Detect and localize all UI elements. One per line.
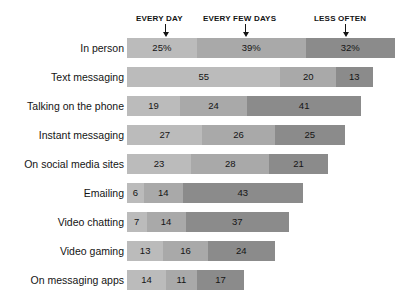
bar-value-label: 14 [158, 188, 169, 198]
bar-value-label: 11 [176, 275, 186, 285]
pointer-arrow-every-few-days [242, 24, 249, 38]
bar-segment-every-day: 23 [127, 154, 191, 174]
bar-value-label: 17 [215, 275, 226, 285]
legend-label-less-often: LESS OFTEN [314, 14, 366, 23]
bar-segment-every-few-days: 11 [166, 270, 197, 290]
bar-value-label: 14 [161, 217, 172, 227]
table-row: On social media sites232821 [0, 154, 410, 174]
bar-segment-less-often: 25 [275, 125, 345, 145]
table-row: Video chatting71437 [0, 212, 410, 232]
stacked-bar: 552013 [127, 67, 373, 87]
bar-segment-every-few-days: 16 [163, 241, 208, 261]
bar-value-label: 39% [242, 43, 261, 53]
stacked-bar: 71437 [127, 212, 289, 232]
table-row: Text messaging552013 [0, 67, 410, 87]
bar-segment-every-day: 55 [127, 67, 280, 87]
category-label-on-social-media-sites: On social media sites [24, 158, 124, 170]
bar-value-label: 24 [236, 246, 247, 256]
bar-segment-every-day: 27 [127, 125, 202, 145]
category-label-emailing: Emailing [84, 187, 124, 199]
bar-segment-every-day: 19 [127, 96, 180, 116]
bar-value-label: 26 [233, 130, 244, 140]
bar-segment-every-few-days: 14 [144, 183, 183, 203]
legend-label-every-few-days: EVERY FEW DAYS [203, 14, 276, 23]
table-row: On messaging apps141117 [0, 270, 410, 290]
stacked-bar: 141117 [127, 270, 244, 290]
legend-label-every-day: EVERY DAY [136, 14, 183, 23]
stacked-bar: 25%39%32% [127, 38, 395, 58]
bar-segment-less-often: 41 [247, 96, 361, 116]
bar-segment-less-often: 13 [336, 67, 372, 87]
bar-segment-less-often: 17 [197, 270, 244, 290]
bar-value-label: 7 [134, 217, 139, 227]
bar-value-label: 23 [154, 159, 165, 169]
bar-value-label: 6 [133, 188, 138, 198]
bar-value-label: 13 [349, 72, 360, 82]
bar-value-label: 20 [303, 72, 314, 82]
category-label-talking-on-the-phone: Talking on the phone [27, 100, 124, 112]
stacked-bar: 232821 [127, 154, 328, 174]
bar-segment-every-few-days: 20 [280, 67, 336, 87]
table-row: Talking on the phone192441 [0, 96, 410, 116]
pointer-arrow-less-often [342, 24, 349, 38]
bar-segment-every-few-days: 26 [202, 125, 275, 145]
bar-value-label: 13 [140, 246, 151, 256]
stacked-bar-chart: EVERY DAY EVERY FEW DAYS LESS OFTEN In p… [0, 0, 410, 299]
bar-value-label: 55 [198, 72, 209, 82]
bar-segment-every-day: 6 [127, 183, 144, 203]
bar-segment-every-day: 25% [127, 38, 197, 58]
bar-value-label: 41 [299, 101, 310, 111]
bar-segment-less-often: 37 [186, 212, 289, 232]
stacked-bar: 192441 [127, 96, 361, 116]
bar-segment-every-few-days: 39% [197, 38, 306, 58]
bar-segment-every-few-days: 28 [191, 154, 269, 174]
bar-value-label: 32% [341, 43, 360, 53]
bar-value-label: 25 [304, 130, 315, 140]
category-label-in-person: In person [80, 42, 124, 54]
stacked-bar: 131624 [127, 241, 275, 261]
bar-value-label: 16 [180, 246, 191, 256]
bar-value-label: 25% [152, 43, 171, 53]
category-label-instant-messaging: Instant messaging [39, 129, 124, 141]
category-label-on-messaging-apps: On messaging apps [31, 274, 124, 286]
table-row: Emailing61443 [0, 183, 410, 203]
category-label-video-gaming: Video gaming [60, 245, 124, 257]
bar-segment-less-often: 43 [183, 183, 303, 203]
pointer-arrow-every-day [162, 24, 169, 38]
bar-segment-every-day: 14 [127, 270, 166, 290]
bar-segment-less-often: 32% [306, 38, 395, 58]
table-row: Video gaming131624 [0, 241, 410, 261]
bar-segment-every-few-days: 14 [147, 212, 186, 232]
bar-value-label: 14 [141, 275, 152, 285]
stacked-bar: 272625 [127, 125, 345, 145]
bar-segment-every-day: 13 [127, 241, 163, 261]
bar-value-label: 43 [237, 188, 248, 198]
bar-value-label: 21 [293, 159, 304, 169]
arrow-head [243, 32, 249, 37]
bar-segment-every-day: 7 [127, 212, 147, 232]
arrow-head [343, 32, 349, 37]
bar-value-label: 27 [159, 130, 170, 140]
bar-value-label: 37 [232, 217, 243, 227]
bar-segment-less-often: 24 [208, 241, 275, 261]
category-label-video-chatting: Video chatting [58, 216, 124, 228]
arrow-head [163, 32, 169, 37]
bar-segment-less-often: 21 [269, 154, 328, 174]
category-label-text-messaging: Text messaging [51, 71, 124, 83]
bar-value-label: 28 [225, 159, 236, 169]
table-row: In person25%39%32% [0, 38, 410, 58]
bar-segment-every-few-days: 24 [180, 96, 247, 116]
bar-value-label: 24 [208, 101, 219, 111]
stacked-bar: 61443 [127, 183, 303, 203]
table-row: Instant messaging272625 [0, 125, 410, 145]
bar-value-label: 19 [148, 101, 159, 111]
